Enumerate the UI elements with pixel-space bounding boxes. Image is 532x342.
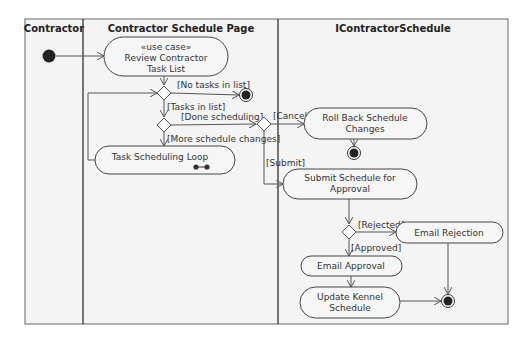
swimlane-frame xyxy=(25,19,508,324)
initial-node xyxy=(43,50,56,63)
guard-more-changes: [More schedule changes] xyxy=(167,134,280,144)
review-stereotype: «use case» xyxy=(141,42,192,52)
action-submit-schedule-for-approval: Submit Schedule for Approval xyxy=(283,169,417,199)
action-email-approval: Email Approval xyxy=(301,256,402,276)
rollback-line1: Roll Back Schedule xyxy=(322,113,408,123)
email-rejection-label: Email Rejection xyxy=(414,228,483,238)
review-line2: Task List xyxy=(146,64,185,74)
submit-line2: Approval xyxy=(330,184,370,194)
activity-diagram: Contractor Contractor Schedule Page ICon… xyxy=(0,0,532,342)
guard-done-scheduling: [Done scheduling] xyxy=(181,112,263,122)
review-line1: Review Contractor xyxy=(125,53,208,63)
action-task-scheduling-loop: Task Scheduling Loop xyxy=(95,146,235,174)
action-email-rejection: Email Rejection xyxy=(396,222,503,243)
guard-no-tasks: [No tasks in list] xyxy=(177,80,250,90)
lane-title-contractor: Contractor xyxy=(24,23,84,34)
final-node-1 xyxy=(240,89,253,102)
loop-label: Task Scheduling Loop xyxy=(111,152,209,162)
update-line1: Update Kennel xyxy=(317,292,383,302)
action-update-kennel-schedule: Update Kennel Schedule xyxy=(300,287,400,318)
update-line2: Schedule xyxy=(329,303,371,313)
guard-tasks-in-list: [Tasks in list] xyxy=(167,102,225,112)
final-node-2 xyxy=(348,147,361,160)
email-approval-label: Email Approval xyxy=(317,261,385,271)
rollback-line2: Changes xyxy=(345,124,384,134)
action-roll-back-schedule-changes: Roll Back Schedule Changes xyxy=(304,108,427,139)
final-node-3 xyxy=(442,295,455,308)
lane-title-schedule-page: Contractor Schedule Page xyxy=(108,23,255,34)
action-review-contractor-task-list: «use case» Review Contractor Task List xyxy=(104,37,228,76)
lane-title-icontractor-schedule: IContractorSchedule xyxy=(335,23,451,34)
guard-approved: [Approved] xyxy=(351,243,401,253)
submit-line1: Submit Schedule for xyxy=(304,173,396,183)
guard-submit: [Submit] xyxy=(266,158,305,168)
